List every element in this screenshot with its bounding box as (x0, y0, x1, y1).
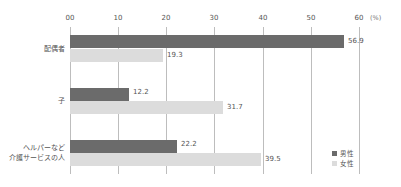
x-tick-20: 20 (162, 14, 171, 22)
bar-chart: 00 10 20 30 40 50 60 (%) 配偶者 子 ヘルパーなど 介護… (0, 0, 401, 187)
bar-helper-male (70, 140, 177, 153)
unit-label: (%) (370, 14, 381, 22)
bar-child-female (70, 101, 223, 114)
x-tick-0: 00 (66, 14, 75, 22)
category-label-helper-line1: ヘルパーなど (9, 143, 65, 153)
legend-item-male: 男性 (332, 148, 354, 158)
legend-swatch-male (332, 151, 337, 156)
value-spouse-female: 19.3 (167, 49, 183, 62)
value-child-female: 31.7 (227, 101, 243, 114)
x-tick-10: 10 (114, 14, 123, 22)
x-tick-50: 50 (307, 14, 316, 22)
bar-child-male (70, 88, 129, 101)
category-label-child: 子 (58, 96, 65, 106)
category-label-helper: ヘルパーなど 介護サービスの人 (9, 143, 65, 163)
category-label-helper-line2: 介護サービスの人 (9, 153, 65, 163)
legend-label-male: 男性 (340, 148, 354, 158)
bar-spouse-male (70, 35, 344, 48)
grid-line-40 (263, 27, 264, 174)
category-label-spouse: 配偶者 (44, 44, 65, 54)
value-child-male: 12.2 (133, 86, 149, 99)
legend-label-female: 女性 (340, 158, 354, 168)
bar-helper-female (70, 153, 261, 166)
x-tick-40: 40 (259, 14, 268, 22)
legend-swatch-female (332, 161, 337, 166)
value-helper-male: 22.2 (181, 138, 197, 151)
x-tick-60: 60 (355, 14, 364, 22)
legend: 男性 女性 (332, 148, 354, 168)
x-tick-30: 30 (210, 14, 219, 22)
value-helper-female: 39.5 (265, 153, 281, 166)
grid-line-50 (311, 27, 312, 174)
grid-line-60 (359, 27, 360, 174)
value-spouse-male: 56.9 (348, 35, 364, 48)
bar-spouse-female (70, 49, 163, 62)
legend-item-female: 女性 (332, 158, 354, 168)
